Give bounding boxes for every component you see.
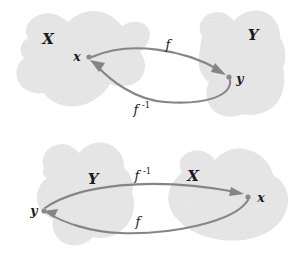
- arrow-label-f-inverse-base-top: f: [133, 102, 141, 117]
- arrow-label-f-inverse-top: f -1: [133, 100, 151, 117]
- point-label-x-bottom: x: [256, 190, 265, 205]
- point-y-bottom: [41, 208, 46, 213]
- point-x-top: [86, 54, 91, 59]
- set-label-y-top: Y: [248, 26, 260, 44]
- arrow-label-f-inverse-base-bottom: f: [134, 168, 142, 183]
- forward-mapping-panel: X Y x y f f -1: [16, 10, 285, 117]
- arrow-label-f-inverse-bottom: f -1: [134, 166, 152, 183]
- point-label-y-top: y: [235, 71, 244, 86]
- point-x-bottom: [245, 194, 250, 199]
- arrow-label-f-inverse-sup-top: -1: [142, 100, 150, 110]
- set-blob-x-bottom: [168, 148, 288, 240]
- arrow-label-f-inverse-sup-bottom: -1: [143, 166, 151, 176]
- set-blob-y-bottom: [37, 142, 134, 245]
- point-label-y-bottom: y: [29, 203, 38, 218]
- arrow-label-f-bottom: f: [135, 214, 143, 229]
- function-inverse-diagram: X Y x y f f -1 Y X y x f -1 f: [0, 0, 294, 260]
- set-label-y-bottom: Y: [88, 170, 100, 188]
- set-label-x-top: X: [41, 30, 55, 48]
- point-label-x-top: x: [72, 49, 81, 64]
- set-blob-y-top: [198, 10, 285, 116]
- inverse-mapping-panel: Y X y x f -1 f: [29, 142, 288, 245]
- point-y-top: [226, 74, 231, 79]
- arrow-label-f-top: f: [165, 37, 173, 52]
- set-label-x-bottom: X: [186, 167, 200, 185]
